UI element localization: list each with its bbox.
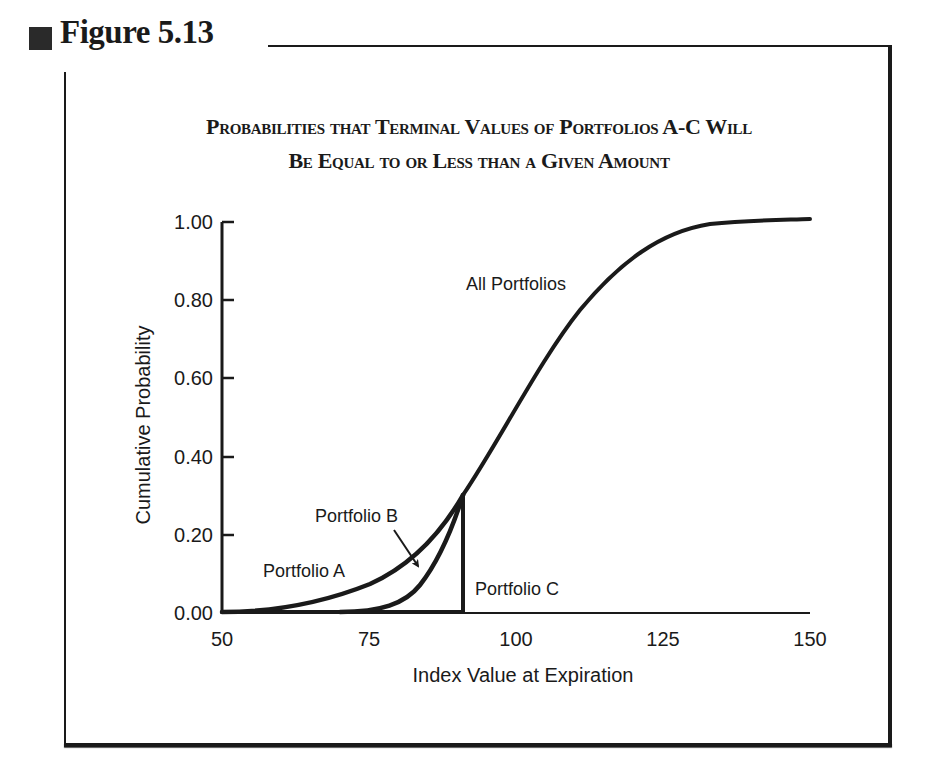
x-tick-label: 75 (358, 628, 380, 650)
x-axis-label: Index Value at Expiration (413, 664, 634, 686)
x-tick-labels: 50 75 100 125 150 (211, 628, 827, 650)
y-tick-label: 0.20 (174, 524, 213, 546)
y-tick-label: 1.00 (174, 211, 213, 233)
chart-plot: 0.00 0.20 0.40 0.60 0.80 1.00 Cumulative… (0, 0, 937, 773)
annotation-portfolio-c: Portfolio C (475, 579, 559, 599)
y-axis: 0.00 0.20 0.40 0.60 0.80 1.00 Cumulative… (132, 211, 234, 624)
y-tick-label: 0.80 (174, 289, 213, 311)
annotation-all-portfolios: All Portfolios (466, 274, 566, 294)
x-tick-label: 100 (499, 628, 532, 650)
y-ticks (222, 222, 234, 535)
x-tick-label: 125 (646, 628, 679, 650)
y-tick-label: 0.00 (174, 602, 213, 624)
y-tick-label: 0.60 (174, 367, 213, 389)
series-all-portfolios (463, 219, 810, 495)
y-tick-label: 0.40 (174, 446, 213, 468)
annotation-portfolio-b: Portfolio B (315, 506, 398, 526)
x-axis: 50 75 100 125 150 Index Value at Expirat… (211, 613, 827, 686)
x-tick-label: 150 (793, 628, 826, 650)
annotation-portfolio-a: Portfolio A (263, 561, 345, 581)
y-axis-label: Cumulative Probability (132, 326, 154, 525)
x-tick-label: 50 (211, 628, 233, 650)
y-tick-labels: 0.00 0.20 0.40 0.60 0.80 1.00 (174, 211, 213, 624)
